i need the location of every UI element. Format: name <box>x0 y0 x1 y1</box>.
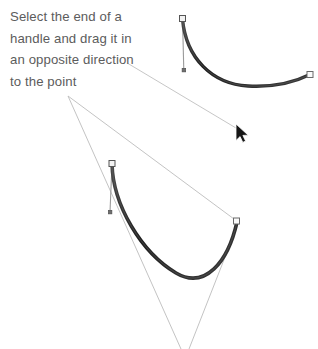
anchor-point-bottom-left[interactable] <box>109 161 115 167</box>
leader-line-vertex-to-bottom-converge <box>68 96 181 349</box>
handle-endpoint-bottom-left[interactable] <box>108 210 112 214</box>
leader-lines-group <box>68 64 241 349</box>
bezier-curve-bottom-highlight <box>112 164 237 278</box>
instruction-caption: Select the end of a handle and drag it i… <box>10 6 160 92</box>
handle-endpoint-top-left[interactable] <box>182 68 186 72</box>
illustration-canvas: Select the end of a handle and drag it i… <box>0 0 318 349</box>
cursor-arrow-icon <box>236 124 248 142</box>
anchor-point-bottom-right[interactable] <box>234 218 240 224</box>
leader-line-vertex-to-bottom-right-anchor <box>68 96 234 219</box>
bezier-curve-bottom[interactable] <box>112 164 237 278</box>
anchor-point-top-right[interactable] <box>307 72 313 78</box>
bezier-curve-top-group[interactable] <box>180 16 314 87</box>
anchor-point-top-left[interactable] <box>180 16 186 22</box>
bezier-curve-bottom-group[interactable] <box>108 161 239 279</box>
bezier-curve-top-highlight <box>183 19 311 86</box>
bezier-curve-top[interactable] <box>183 19 311 86</box>
mouse-cursor-arrow <box>236 124 248 142</box>
